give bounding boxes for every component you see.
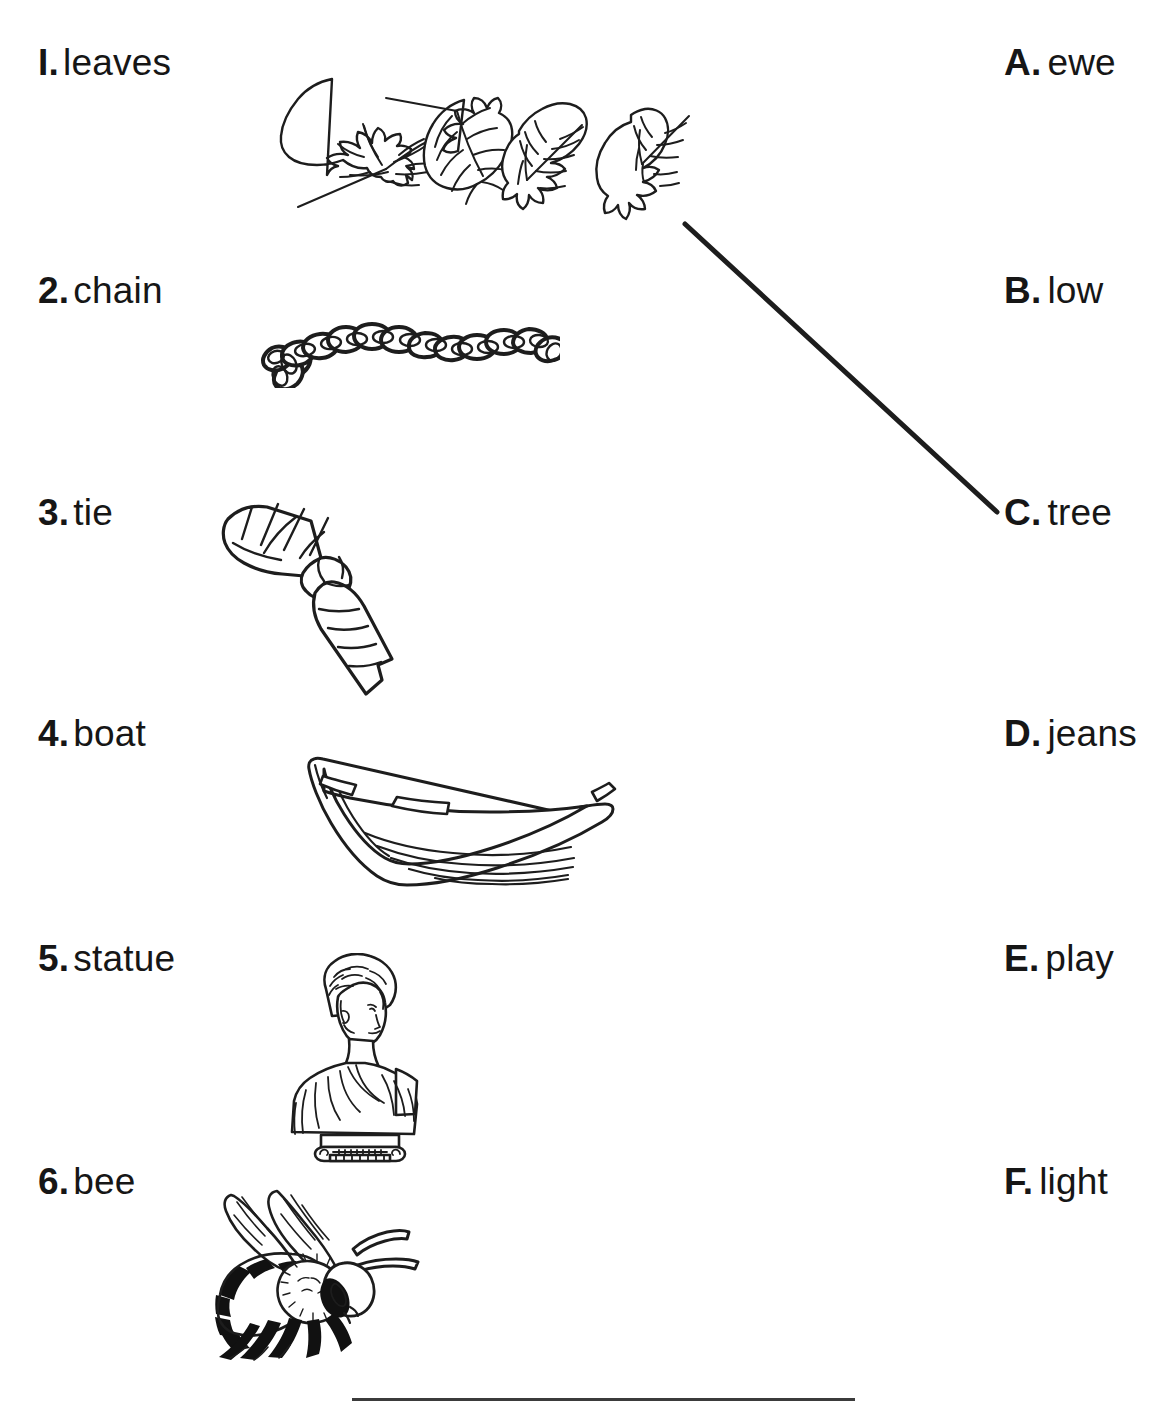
right-item-d-marker: D.	[1004, 713, 1041, 754]
bust-statue-illustration	[284, 953, 436, 1167]
right-item-c-marker: C.	[1004, 492, 1041, 533]
bee-illustration	[198, 1183, 424, 1379]
left-item-1-word: leaves	[63, 42, 171, 83]
left-item-6-marker: 6.	[38, 1161, 69, 1202]
right-item-f-marker: F.	[1004, 1161, 1033, 1202]
chain-illustration	[258, 304, 560, 388]
left-item-4-word: boat	[73, 713, 146, 754]
left-item-2[interactable]: 2.chain	[38, 272, 163, 309]
right-item-e[interactable]: E.play	[1004, 940, 1114, 977]
left-item-2-word: chain	[73, 270, 162, 311]
match-line-1-to-C	[685, 224, 997, 512]
leaves-illustration	[236, 62, 716, 227]
right-item-c[interactable]: C.tree	[1004, 494, 1112, 531]
right-item-a[interactable]: A.ewe	[1004, 44, 1116, 81]
left-item-2-marker: 2.	[38, 270, 69, 311]
right-item-f[interactable]: F.light	[1004, 1163, 1108, 1200]
right-item-a-marker: A.	[1004, 42, 1041, 83]
left-item-4-marker: 4.	[38, 713, 69, 754]
rowboat-illustration	[293, 747, 633, 887]
left-item-1-marker: I.	[38, 42, 59, 83]
right-item-d[interactable]: D.jeans	[1004, 715, 1137, 752]
left-item-5-word: statue	[73, 938, 175, 979]
right-item-d-word: jeans	[1047, 713, 1136, 754]
left-item-3[interactable]: 3.tie	[38, 494, 113, 531]
left-item-3-word: tie	[73, 492, 113, 533]
worksheet-page: I.leaves 2.chain 3.tie 4.boat 5.statue 6…	[0, 0, 1175, 1407]
right-item-e-marker: E.	[1004, 938, 1039, 979]
left-item-4[interactable]: 4.boat	[38, 715, 146, 752]
left-item-6-word: bee	[73, 1161, 135, 1202]
right-item-b-marker: B.	[1004, 270, 1041, 311]
right-item-b-word: low	[1047, 270, 1103, 311]
left-item-3-marker: 3.	[38, 492, 69, 533]
right-item-f-word: light	[1039, 1161, 1108, 1202]
right-item-b[interactable]: B.low	[1004, 272, 1104, 309]
left-item-1[interactable]: I.leaves	[38, 44, 171, 81]
footer-divider	[352, 1398, 855, 1401]
left-item-5[interactable]: 5.statue	[38, 940, 175, 977]
right-item-a-word: ewe	[1047, 42, 1115, 83]
left-item-5-marker: 5.	[38, 938, 69, 979]
right-item-e-word: play	[1045, 938, 1114, 979]
left-item-6[interactable]: 6.bee	[38, 1163, 136, 1200]
necktie-illustration	[200, 487, 460, 699]
right-item-c-word: tree	[1047, 492, 1112, 533]
